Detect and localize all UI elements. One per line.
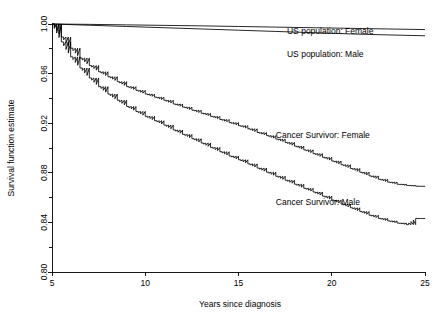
y-tick-label: 0.80	[39, 263, 49, 280]
series-label-cancer-survivor-female: Cancer Survivor: Female	[276, 130, 370, 140]
x-axis: 510152025	[50, 272, 430, 288]
y-axis: 0.800.840.880.920.961.00	[39, 15, 52, 280]
plot-area: 0.800.840.880.920.961.00 510152025 US po…	[0, 0, 444, 326]
curve-cancer-survivor-female	[52, 24, 425, 186]
data-curves	[52, 24, 425, 225]
y-tick-label: 0.92	[39, 115, 49, 132]
x-tick-label: 10	[141, 278, 151, 288]
y-tick-label: 1.00	[39, 15, 49, 32]
x-tick-label: 15	[234, 278, 244, 288]
series-annotations: US population: FemaleUS population: Male…	[276, 26, 374, 207]
survival-curve-chart: 0.800.840.880.920.961.00 510152025 US po…	[0, 0, 444, 326]
y-tick-label: 0.96	[39, 65, 49, 82]
series-label-us-population-female: US population: Female	[287, 26, 374, 36]
x-axis-title: Years since diagnosis	[199, 299, 281, 309]
y-tick-label: 0.84	[39, 214, 49, 231]
series-label-us-population-male: US population: Male	[287, 49, 364, 59]
series-label-cancer-survivor-male: Cancer Survivor: Male	[276, 197, 360, 207]
y-tick-label: 0.88	[39, 164, 49, 181]
x-tick-label: 20	[327, 278, 337, 288]
x-tick-label: 5	[50, 278, 55, 288]
y-axis-title: Survival function estimate	[6, 99, 16, 196]
x-tick-label: 25	[420, 278, 430, 288]
